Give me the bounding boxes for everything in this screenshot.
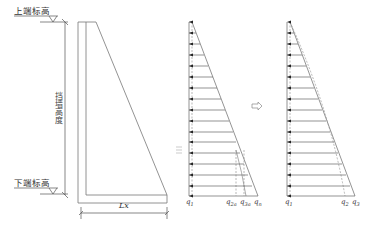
top-elevation-label: 上端标高	[14, 4, 50, 16]
right-arrowheads	[287, 21, 291, 198]
retaining-wall-section	[78, 22, 167, 203]
transition-arrow-icon	[252, 102, 262, 110]
middle-arrowheads	[189, 21, 193, 198]
middle-pressure-diagram	[189, 22, 258, 196]
label-q3a: q3a	[240, 198, 251, 207]
label-q3: q3	[352, 198, 360, 207]
label-qn: qn	[254, 198, 262, 207]
top-elevation-marker	[14, 16, 68, 22]
label-q2: q2	[341, 198, 349, 207]
bottom-elevation-label: 下端标高	[14, 176, 50, 188]
wall-height-label: 挡墙高度	[52, 92, 63, 124]
small-annotation-mark	[176, 147, 182, 153]
bottom-elevation-marker	[14, 188, 68, 194]
label-q1-middle: q1	[186, 198, 194, 207]
width-lx-label: Lx	[119, 201, 129, 210]
label-q2a: q2a	[226, 198, 237, 207]
right-pressure-diagram	[287, 22, 355, 196]
label-q1-right: q1	[285, 198, 293, 207]
